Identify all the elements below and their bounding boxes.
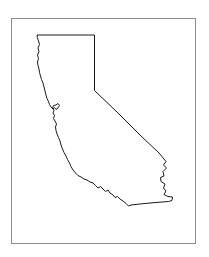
- california-map-svg: [0, 0, 209, 257]
- figure-root: California state outline map: [0, 0, 209, 257]
